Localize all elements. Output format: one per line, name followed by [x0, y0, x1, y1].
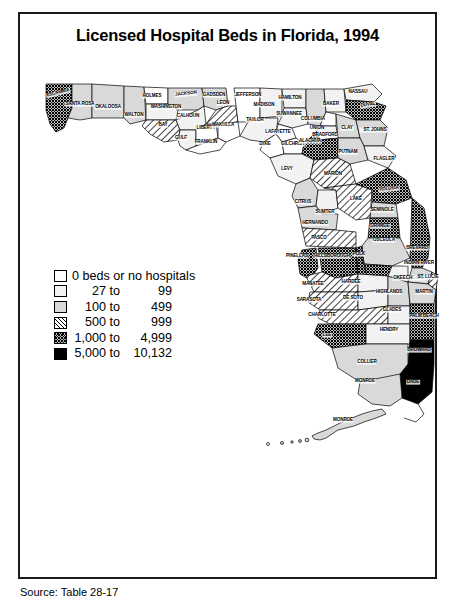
county-label-lake: LAKE [349, 197, 362, 202]
county-label-marion: MARION [323, 172, 342, 177]
county-palm-beach [410, 304, 434, 340]
county-label-taylor: TAYLOR [246, 118, 265, 123]
legend-row-4: 1,000 to4,999 [54, 330, 195, 346]
county-okaloosa [92, 84, 124, 118]
county-label-santa-rosa: SANTA ROSA [65, 102, 96, 107]
legend-label-4: 1,000 to4,999 [72, 332, 172, 345]
county-label-washington: WASHINGTON [150, 105, 182, 110]
keys-coast-accent [404, 404, 424, 422]
county-label-st-lucie: ST. LUCIE [413, 275, 444, 280]
county-label-bradford: BRADFORD [312, 133, 338, 138]
county-label-gulf: GULF [174, 136, 187, 141]
legend-swatch-light-gray [54, 301, 67, 313]
county-label-holmes: HOLMES [142, 94, 162, 99]
source-note: Source: Table 28-17 [20, 586, 118, 598]
county-label-seminole: SEMINOLE [370, 208, 394, 213]
county-label-bay: BAY [158, 123, 168, 128]
county-label-highlands: HIGHLANDS [375, 290, 402, 295]
county-label-franklin: FRANKLIN [194, 140, 218, 145]
county-label-martin: MARTIN [415, 290, 433, 295]
county-label-brevard: BREVARD [406, 246, 429, 251]
county-label-st-johns: ST. JOHNS [360, 128, 391, 133]
legend-row-3: 500 to999 [54, 315, 195, 331]
county-label-pasco: PASCO [311, 236, 328, 241]
county-label-wakulla: WAKULLA [211, 123, 234, 128]
county-label-indian-river: INDIAN RIVER [404, 261, 435, 266]
keys-islet-3 [291, 441, 293, 443]
county-label-sarasota: SARASOTA [296, 298, 322, 303]
county-label-levy: LEVY [281, 167, 294, 172]
county-label-madison: MADISON [253, 103, 275, 108]
page-title: Licensed Hospital Beds in Florida, 1994 [20, 26, 435, 45]
legend-label-5: 5,000 to10,132 [72, 347, 172, 360]
county-label-columbia: COLUMBIA [301, 117, 326, 122]
dry-tortugas [267, 443, 270, 446]
county-label-union: UNION [309, 126, 324, 131]
county-label-hillsborough: HILLSBOROUGH [313, 254, 350, 259]
county-label-monroe: MONROE [332, 418, 353, 423]
county-label-glades: GLADES [382, 308, 402, 313]
county-label-monroe: MONROE [354, 379, 375, 384]
county-label-hendry: HENDRY [379, 328, 399, 333]
county-label-hardee: HARDEE [341, 280, 361, 285]
county-label-dixie: DIXIE [259, 142, 272, 147]
legend-swatch-white [54, 270, 67, 282]
legend-row-5: 5,000 to10,132 [54, 346, 195, 362]
county-label-nassau: NASSAU [348, 90, 368, 95]
county-label-collier: COLLIER [357, 360, 377, 365]
map-figure: Licensed Hospital Beds in Florida, 1994 [18, 12, 437, 579]
legend-row-0: 0 beds or no hospitals [54, 268, 195, 284]
county-label-charlotte: CHARLOTTE [308, 313, 336, 318]
county-label-leon: LEON [216, 101, 229, 106]
county-label-clay: CLAY [341, 126, 354, 131]
legend-label-1: 27 to99 [72, 285, 172, 298]
county-label-osceola: OSCEOLA [372, 238, 395, 243]
legend-row-1: 27 to99 [54, 284, 195, 300]
county-label-suwannee: SUWANNEE [276, 112, 303, 117]
county-label-hamilton: HAMILTON [278, 96, 302, 101]
county-label-putnam: PUTNAM [338, 150, 358, 155]
county-label-palm-beach: PALM BEACH [409, 314, 439, 319]
county-label-okaloosa: OKALOOSA [95, 105, 122, 110]
county-label-lee: LEE [322, 333, 332, 338]
legend-label-0: 0 beds or no hospitals [72, 270, 195, 283]
county-label-broward: BROWARD [407, 348, 432, 353]
county-label-flagler: FLAGLER [373, 157, 395, 162]
keys-islet-4 [281, 442, 284, 445]
county-label-jefferson: JEFFERSON [234, 93, 262, 98]
legend-swatch-diagonal-hatch [54, 317, 67, 329]
county-brevard [410, 198, 430, 268]
map-legend: 0 beds or no hospitals27 to99100 to49950… [54, 268, 195, 362]
county-label-gadsden: GADSDEN [202, 93, 225, 98]
keys-islet-2 [299, 440, 302, 443]
legend-row-2: 100 to499 [54, 299, 195, 315]
county-label-orange: ORANGE [370, 224, 391, 229]
legend-label-2: 100 to499 [72, 301, 172, 314]
legend-swatch-black [54, 348, 67, 360]
county-label-de-soto: DE SOTO [343, 296, 364, 301]
county-label-lafayette: LAFAYETTE [265, 130, 291, 135]
county-label-calhoun: CALHOUN [176, 114, 199, 119]
county-label-baker: BAKER [323, 102, 340, 107]
county-label-pinellas: PINELLAS [286, 254, 309, 259]
county-label-manatee: MANATEE [302, 282, 325, 287]
legend-swatch-very-light-gray [54, 285, 67, 297]
keys-islet-1 [305, 438, 309, 442]
county-label-hernando: HERNANDO [302, 221, 329, 226]
county-label-alachua: ALACHUA [298, 139, 321, 144]
county-label-citrus: CITRUS [294, 200, 312, 205]
legend-swatch-crosshatch [54, 332, 67, 344]
county-label-dade: DADE [406, 380, 420, 385]
county-label-polk: POLK [352, 252, 365, 257]
county-label-sumter: SUMTER [315, 210, 335, 215]
county-monroe-keys [312, 409, 386, 440]
legend-label-3: 500 to999 [72, 316, 172, 329]
county-label-walton: WALTON [124, 113, 144, 118]
